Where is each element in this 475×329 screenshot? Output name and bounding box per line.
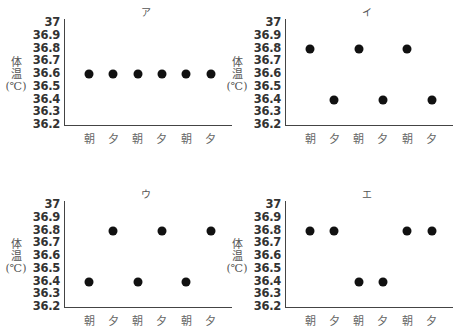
data-point [85, 70, 94, 79]
y-tick-label: 36.6 [26, 249, 60, 261]
data-point [306, 44, 315, 53]
y-tick-label: 36.5 [26, 262, 60, 274]
y-tick-label: 36.4 [247, 275, 281, 287]
y-tick-label: 36.6 [247, 67, 281, 79]
y-tick-label: 36.9 [247, 29, 281, 41]
x-tick-label: 夕 [426, 130, 437, 146]
data-point [133, 277, 142, 286]
y-tick-label: 36.2 [26, 300, 60, 312]
data-point [182, 277, 191, 286]
x-tick-label: 夕 [377, 312, 388, 328]
data-point [206, 70, 215, 79]
x-tick-label: 朝 [402, 312, 413, 328]
y-tick-label: 36.5 [247, 262, 281, 274]
x-tick-label: 朝 [84, 130, 95, 146]
y-tick-label: 36.3 [26, 287, 60, 299]
y-axis-label-line: (℃) [226, 263, 248, 275]
data-point [403, 226, 412, 235]
chart-panel: イ体温(℃)3736.936.836.736.636.536.436.336.2… [221, 0, 458, 164]
y-axis-label: 体温(℃) [5, 57, 27, 93]
y-tick-label: 37 [247, 198, 281, 210]
x-tick-label: 朝 [353, 130, 364, 146]
y-axis-line [285, 19, 286, 125]
x-axis-line [285, 307, 453, 308]
x-tick-label: 夕 [426, 312, 437, 328]
data-point [206, 226, 215, 235]
y-axis-line [64, 201, 65, 307]
y-axis-line [285, 201, 286, 307]
y-tick-label: 36.4 [26, 275, 60, 287]
y-tick-label: 36.9 [247, 211, 281, 223]
data-point [403, 44, 412, 53]
y-tick-label: 36.4 [247, 93, 281, 105]
y-axis-label-line: (℃) [5, 81, 27, 93]
chart-panel: ウ体温(℃)3736.936.836.736.636.536.436.336.2… [0, 182, 237, 329]
chart-title: イ [362, 4, 372, 19]
x-tick-label: 夕 [156, 312, 167, 328]
y-tick-label: 36.9 [26, 211, 60, 223]
y-axis-label-line: (℃) [5, 263, 27, 275]
y-tick-label: 36.7 [247, 54, 281, 66]
chart-panel: ア体温(℃)3736.936.836.736.636.536.436.336.2… [0, 0, 237, 164]
x-axis-line [64, 125, 232, 126]
x-tick-label: 朝 [181, 130, 192, 146]
data-point [157, 70, 166, 79]
y-tick-label: 36.2 [247, 300, 281, 312]
y-axis-label: 体温(℃) [226, 239, 248, 275]
chart-title: エ [362, 186, 372, 201]
data-point [378, 95, 387, 104]
x-tick-label: 朝 [305, 130, 316, 146]
x-tick-label: 朝 [84, 312, 95, 328]
y-tick-label: 36.5 [247, 80, 281, 92]
data-point [427, 226, 436, 235]
y-tick-label: 37 [26, 198, 60, 210]
y-tick-label: 36.4 [26, 93, 60, 105]
y-tick-label: 36.8 [247, 224, 281, 236]
y-tick-label: 36.8 [247, 42, 281, 54]
x-tick-label: 夕 [377, 130, 388, 146]
x-tick-label: 朝 [353, 312, 364, 328]
data-point [354, 44, 363, 53]
x-tick-label: 朝 [305, 312, 316, 328]
data-point [427, 95, 436, 104]
x-tick-label: 夕 [108, 312, 119, 328]
y-tick-label: 37 [247, 16, 281, 28]
data-point [157, 226, 166, 235]
y-tick-label: 36.3 [26, 105, 60, 117]
y-tick-label: 36.8 [26, 224, 60, 236]
x-axis-line [64, 307, 232, 308]
y-tick-label: 36.6 [26, 67, 60, 79]
data-point [109, 226, 118, 235]
y-axis-line [64, 19, 65, 125]
x-tick-label: 朝 [132, 130, 143, 146]
x-tick-label: 朝 [402, 130, 413, 146]
data-point [109, 70, 118, 79]
data-point [378, 277, 387, 286]
x-tick-label: 朝 [132, 312, 143, 328]
y-tick-label: 36.3 [247, 287, 281, 299]
y-tick-label: 36.6 [247, 249, 281, 261]
data-point [354, 277, 363, 286]
y-tick-label: 36.8 [26, 42, 60, 54]
y-tick-label: 36.3 [247, 105, 281, 117]
y-tick-label: 37 [26, 16, 60, 28]
y-tick-label: 36.2 [247, 118, 281, 130]
data-point [133, 70, 142, 79]
x-tick-label: 夕 [108, 130, 119, 146]
y-tick-label: 36.9 [26, 29, 60, 41]
x-tick-label: 朝 [181, 312, 192, 328]
y-axis-label-line: (℃) [226, 81, 248, 93]
y-tick-label: 36.5 [26, 80, 60, 92]
x-tick-label: 夕 [156, 130, 167, 146]
x-tick-label: 夕 [329, 312, 340, 328]
data-point [85, 277, 94, 286]
y-tick-label: 36.7 [26, 236, 60, 248]
x-axis-line [285, 125, 453, 126]
data-point [330, 226, 339, 235]
data-point [182, 70, 191, 79]
chart-panel: エ体温(℃)3736.936.836.736.636.536.436.336.2… [221, 182, 458, 329]
y-axis-label: 体温(℃) [5, 239, 27, 275]
x-tick-label: 夕 [205, 312, 216, 328]
data-point [330, 95, 339, 104]
x-tick-label: 夕 [329, 130, 340, 146]
